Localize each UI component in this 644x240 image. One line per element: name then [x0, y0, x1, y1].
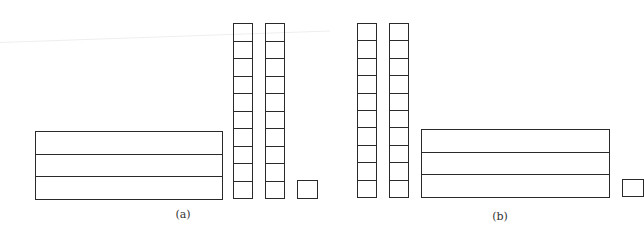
flat-row [422, 153, 609, 176]
flat-row [36, 177, 222, 199]
flat-block-b [421, 129, 610, 198]
flat-row [422, 130, 609, 153]
flat-row [36, 132, 222, 155]
flat-row [36, 155, 222, 178]
rod-a-2 [265, 23, 285, 199]
flat-row [422, 175, 609, 197]
panel-label-a: (a) [168, 208, 198, 221]
flat-block-a [35, 131, 223, 200]
unit-cube-b [622, 179, 644, 197]
rod-b-1 [357, 23, 377, 198]
rod-a-1 [233, 23, 253, 199]
panel-label-b: (b) [485, 210, 515, 223]
rod-b-2 [389, 23, 409, 198]
unit-cube-a [297, 180, 318, 199]
